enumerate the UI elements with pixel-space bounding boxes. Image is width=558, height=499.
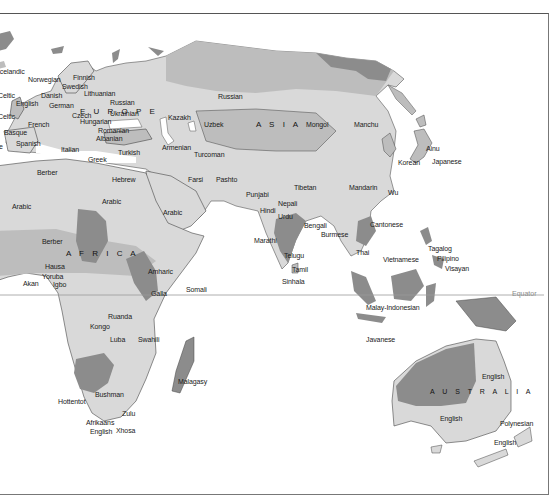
label-turcoman: Turcoman <box>194 151 224 158</box>
label-galla: Galla <box>151 290 167 297</box>
label-thai: Thai <box>356 249 369 256</box>
label-afrikaans: Afrikaans <box>86 419 114 426</box>
label-japanese: Japanese <box>432 158 462 165</box>
label-arabic-egypt: Arabic <box>102 198 121 205</box>
label-tamil: Tamil <box>292 266 308 273</box>
equator-label: Equator <box>512 290 537 297</box>
label-wu: Wu <box>388 189 398 196</box>
label-finnish: Finnish <box>73 74 95 81</box>
label-vietnamese: Vietnamese <box>383 256 419 263</box>
continent-label-asia: A S I A <box>256 121 301 129</box>
label-punjabi: Punjabi <box>246 191 269 198</box>
label-tibetan: Tibetan <box>294 184 316 191</box>
label-english-south-africa: English <box>90 428 112 435</box>
continent-label-australia: A U S T R A L I A <box>430 388 533 395</box>
label-burmese: Burmese <box>321 231 348 238</box>
label-greek: Greek <box>88 156 107 163</box>
label-russian-asia: Russian <box>218 93 243 100</box>
label-korean: Korean <box>398 159 420 166</box>
label-bengali: Bengali <box>304 222 327 229</box>
label-romanian: Romanian <box>98 127 129 134</box>
label-english-uk: English <box>16 100 38 107</box>
label-norwegian: Norwegian <box>28 76 61 83</box>
label-swedish: Swedish <box>62 83 88 90</box>
label-hebrew: Hebrew <box>112 176 136 183</box>
label-hungarian: Hungarian <box>80 118 111 125</box>
label-polynesian: Polynesian <box>500 420 533 427</box>
label-arabic-peninsula: Arabic <box>163 209 182 216</box>
label-swahili: Swahili <box>138 336 159 343</box>
label-zulu: Zulu <box>122 410 135 417</box>
continent-label-africa: A F R I C A <box>66 250 139 258</box>
label-telugu: Telugu <box>284 252 304 259</box>
label-hottentot: Hottentot <box>58 398 86 405</box>
label-italian: Italian <box>61 146 79 153</box>
label-xhosa: Xhosa <box>116 427 135 434</box>
label-german: German <box>49 102 74 109</box>
label-portuguese: Portuguese <box>0 143 3 150</box>
label-russian-europe: Russian <box>110 99 135 106</box>
label-lithuanian: Lithuanian <box>84 90 115 97</box>
label-bushman: Bushman <box>95 391 124 398</box>
label-hindi: Hindi <box>260 207 275 214</box>
greenland-shape <box>0 31 14 51</box>
label-pilipino: Pilipino <box>437 255 459 262</box>
label-basque: Basque <box>4 129 27 136</box>
label-cantonese: Cantonese <box>370 221 403 228</box>
label-nepali: Nepali <box>278 200 297 207</box>
label-ukrainian: Ukrainian <box>110 110 139 117</box>
label-amharic: Amharic <box>148 268 173 275</box>
label-malagasy: Malagasy <box>178 378 207 385</box>
label-arabic-west: Arabic <box>12 203 31 210</box>
label-danish: Danish <box>41 92 62 99</box>
label-sinhala: Sinhala <box>282 278 305 285</box>
label-celtic-2: Celtic <box>0 113 15 120</box>
label-visayan: Visayan <box>445 265 469 272</box>
label-ainu: Ainu <box>426 145 440 152</box>
label-tagalog: Tagalog <box>428 245 452 252</box>
label-akan: Akan <box>23 280 39 287</box>
label-marathi: Marathi <box>254 237 277 244</box>
label-uzbek: Uzbek <box>204 121 223 128</box>
label-armenian: Armenian <box>162 144 191 151</box>
label-english-australia-ne: English <box>482 373 504 380</box>
label-albanian: Albanian <box>96 135 122 142</box>
label-mongol: Mongol <box>306 121 328 128</box>
label-french: French <box>28 121 49 128</box>
label-farsi: Farsi <box>188 176 203 183</box>
label-igbo: Igbo <box>53 281 66 288</box>
label-luba: Luba <box>110 336 125 343</box>
label-javanese: Javanese <box>366 336 395 343</box>
language-map: E U R O P E A S I A A F R I C A A U S T … <box>0 13 549 495</box>
label-hausa: Hausa <box>45 263 65 270</box>
label-somali: Somali <box>186 286 207 293</box>
label-english-new-zealand: English <box>494 439 516 446</box>
label-turkish: Turkish <box>118 149 140 156</box>
label-kazakh: Kazakh <box>168 114 191 121</box>
label-kongo: Kongo <box>90 323 110 330</box>
label-english-australia-s: English <box>440 415 462 422</box>
label-berber-south: Berber <box>42 238 62 245</box>
label-urdu: Urdu <box>278 213 293 220</box>
label-ruanda: Ruanda <box>108 313 132 320</box>
label-yoruba: Yoruba <box>42 273 63 280</box>
label-malay-indonesian: Malay-Indonesian <box>366 304 420 311</box>
label-manchu: Manchu <box>354 121 378 128</box>
label-pashto: Pashto <box>216 176 237 183</box>
label-icelandic: Icelandic <box>0 68 25 75</box>
label-mandarin: Mandarin <box>349 184 377 191</box>
label-celtic-1: Celtic <box>0 92 15 99</box>
label-berber-north: Berber <box>37 169 57 176</box>
label-spanish: Spanish <box>16 140 41 147</box>
